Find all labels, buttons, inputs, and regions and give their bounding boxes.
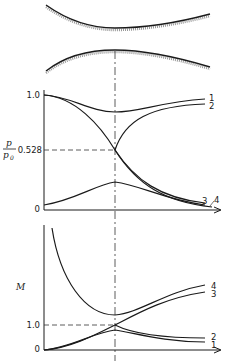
pressure-tick-0: 0 (35, 204, 40, 214)
pressure-ylabel-numerator: p (6, 138, 12, 148)
nozzle-flow-diagram: 1.0 0.528 0 p p 0 1 2 3 4 M 1.0 0 (0, 0, 227, 361)
mach-tick-0: 0 (35, 344, 40, 354)
mach-curve-2 (115, 325, 205, 338)
pressure-ylabel: p p 0 (3, 138, 16, 161)
mach-number-plot: M 1.0 0 4 3 2 1 (15, 225, 221, 354)
mach-curve-4 (52, 228, 205, 315)
nozzle-lower-wall-hatch (46, 52, 210, 73)
pressure-tick-0-528: 0.528 (18, 145, 42, 155)
pressure-curve-label-3: 3 (202, 196, 207, 206)
mach-ylabel: M (15, 282, 26, 292)
pressure-ylabel-subscript: 0 (10, 154, 14, 161)
nozzle-profile (46, 5, 210, 73)
pressure-curve-label-2: 2 (209, 101, 214, 111)
mach-curve-1 (44, 330, 205, 350)
pressure-tick-1-0: 1.0 (26, 90, 40, 100)
mach-curve-label-1: 1 (211, 340, 216, 350)
pressure-curve-1 (44, 95, 205, 112)
nozzle-upper-wall (46, 5, 210, 28)
pressure-ratio-plot: 1.0 0.528 0 p p 0 1 2 3 4 (3, 90, 221, 214)
pressure-curve-label-4: 4 (214, 195, 219, 205)
mach-tick-1-0: 1.0 (26, 320, 40, 330)
mach-curve-label-3: 3 (211, 289, 216, 299)
pressure-curve-4 (115, 150, 212, 207)
pressure-ylabel-denominator: p (3, 150, 9, 160)
